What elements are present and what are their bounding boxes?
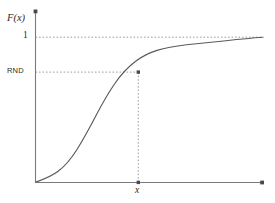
x-axis-arrow-cap <box>260 181 264 185</box>
y-axis-arrow-cap <box>34 10 38 14</box>
x-axis-tick-marker <box>137 181 140 184</box>
x-tick-label-x: x <box>135 186 139 196</box>
cdf-figure: F(x) 1 RND x <box>0 0 275 203</box>
cdf-curve-path <box>36 37 263 182</box>
y-tick-label-rnd: RND <box>7 67 24 75</box>
y-axis-title-label: F(x) <box>7 13 25 24</box>
intersection-marker <box>137 70 140 73</box>
plot-canvas <box>0 0 275 203</box>
y-tick-label-one: 1 <box>23 31 28 41</box>
